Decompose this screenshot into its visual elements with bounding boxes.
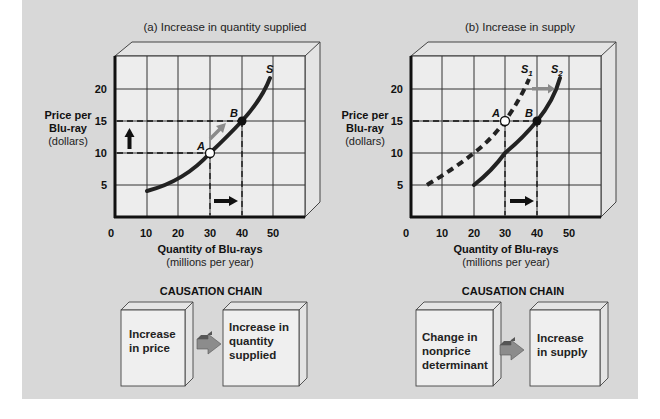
chart-b-xlabel-line2: (millions per year) [462, 256, 549, 268]
chart-a-point-b [238, 117, 247, 126]
chart-b-point-a [501, 117, 510, 126]
chart-a-title: (a) Increase in quantity supplied [143, 21, 306, 33]
chart-b-xtick-10: 10 [436, 227, 448, 239]
causation-a-box-2: Increase in quantity [223, 302, 307, 386]
chart-a-point-a [206, 149, 215, 158]
chart-a-xtick-0: 0 [108, 227, 114, 239]
causation-a-box-1-line-2: in price [129, 342, 170, 354]
causation-b-title: CAUSATION CHAIN [462, 285, 565, 297]
chart-a-xtick-20: 20 [172, 227, 184, 239]
chart-b-title: (b) Increase in supply [465, 21, 575, 33]
chart-b-xtick-50: 50 [563, 227, 575, 239]
causation-a-title: CAUSATION CHAIN [160, 285, 263, 297]
chart-a-ytick-20: 20 [95, 83, 107, 95]
chart-b-ytick-20: 20 [391, 83, 403, 95]
causation-a-box-2-line-2: quantity [229, 335, 274, 347]
chart-b-xtick-20: 20 [468, 227, 480, 239]
chart-a-ytick-15: 15 [95, 115, 107, 127]
causation-a-box-2-line-1: Increase in [229, 321, 289, 333]
figure-canvas: (a) Increase in quantity supplied [0, 0, 660, 419]
causation-b-box-2-line-1: Increase [537, 332, 584, 344]
causation-b-box-2-line-2: in supply [537, 346, 588, 358]
chart-a-curve-label: S [266, 63, 274, 75]
chart-b-xtick-0: 0 [403, 227, 409, 239]
chart-a-xtick-50: 50 [267, 227, 279, 239]
causation-a-box-1: Increase in price [121, 302, 193, 386]
chart-a-xlabel-line1: Quantity of Blu-rays [157, 243, 262, 255]
chart-b-ylabel-line2: Blu-ray [346, 122, 385, 134]
chart-b-ytick-15: 15 [391, 115, 403, 127]
chart-a-point-b-label: B [230, 107, 238, 119]
chart-a-xlabel-line2: (millions per year) [166, 256, 253, 268]
causation-a-arrow-icon [197, 331, 221, 354]
chart-b-ylabel-line3: (dollars) [345, 135, 385, 147]
causation-b-box-1-line-3: determinant [422, 359, 488, 371]
chart-b-point-b [533, 117, 542, 126]
chart-b-point-b-label: B [525, 107, 533, 119]
causation-a-box-2-line-3: supplied [229, 349, 276, 361]
chart-a-ytick-10: 10 [95, 147, 107, 159]
chart-b-plot-area [411, 56, 601, 217]
chart-b-xlabel-line1: Quantity of Blu-rays [453, 243, 558, 255]
causation-chain-a: CAUSATION CHAIN Increase in price Increa… [121, 285, 307, 386]
chart-b-ytick-5: 5 [397, 179, 403, 191]
chart-a-xtick-40: 40 [236, 227, 248, 239]
chart-b-ytick-10: 10 [391, 147, 403, 159]
chart-b: (b) Increase in supply S1 S2 [341, 21, 616, 268]
chart-a-ylabel-line3: (dollars) [48, 135, 88, 147]
causation-b-box-1-line-1: Change in [422, 331, 478, 343]
chart-b-ylabel-line1: Price per [341, 109, 389, 121]
chart-a-ylabel-line1: Price per [44, 109, 92, 121]
causation-a-box-1-line-1: Increase [129, 328, 176, 340]
chart-a: (a) Increase in quantity supplied [44, 21, 320, 268]
causation-b-box-1-line-2: nonprice [422, 345, 471, 357]
chart-a-point-a-label: A [196, 140, 205, 152]
chart-a-xtick-10: 10 [140, 227, 152, 239]
causation-b-box-2: Increase in supply [530, 302, 608, 386]
chart-a-ylabel-line2: Blu-ray [49, 122, 88, 134]
chart-b-xtick-30: 30 [499, 227, 511, 239]
chart-a-ytick-5: 5 [101, 179, 107, 191]
chart-a-xtick-30: 30 [204, 227, 216, 239]
causation-b-arrow-icon [500, 337, 524, 360]
causation-b-box-1: Change in nonprice determinant [416, 302, 501, 386]
chart-b-xtick-40: 40 [531, 227, 543, 239]
causation-chain-b: CAUSATION CHAIN Change in nonprice deter… [416, 285, 608, 386]
chart-b-point-a-label: A [491, 107, 500, 119]
